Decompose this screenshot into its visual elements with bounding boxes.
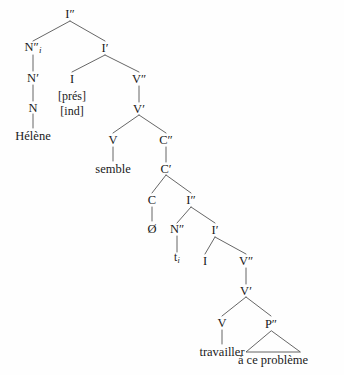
edge-ibar-to-i (72, 55, 105, 72)
node-comp-c1: C′ (160, 163, 171, 176)
node-embedded-i: I (203, 255, 207, 268)
syntax-tree-figure: I″ N″i N′ N Hélène I′ I [prés] [ind] V″ … (0, 0, 344, 375)
edge-v1-to-c2 (139, 115, 166, 133)
node-trace: ti (174, 252, 180, 265)
edge-root-to-subject (33, 21, 70, 41)
edge-embedded-ibar-to-v2 (215, 237, 246, 254)
node-pp-phrase: à ce problème (238, 354, 308, 367)
feature-mood: [ind] (58, 104, 86, 119)
node-embedded-v2: V″ (239, 255, 253, 268)
node-matrix-i1: I′ (102, 42, 109, 55)
edge-c1-to-embedded-i2 (166, 175, 191, 193)
node-subject-n2: N″i (24, 41, 41, 55)
node-subject-index: i (39, 45, 42, 55)
node-subject-n2-label: N″ (24, 40, 38, 54)
node-comp-c: C (148, 194, 156, 207)
node-subject-word: Hélène (15, 130, 50, 143)
node-trace-label: t (174, 251, 177, 263)
node-pp-p2: P″ (265, 318, 277, 331)
edge-embedded-i2-to-ibar (191, 207, 215, 223)
node-matrix-v2: V″ (132, 73, 146, 86)
node-matrix-v: V (108, 134, 117, 147)
node-subject-n1: N′ (27, 72, 39, 85)
node-trace-index: i (178, 256, 180, 265)
tree-edge-layer (0, 0, 344, 375)
node-root-i2: I″ (65, 8, 74, 21)
node-trace-n2: N″ (170, 223, 184, 236)
node-embedded-i2: I″ (186, 194, 195, 207)
inflection-features: [prés] [ind] (58, 89, 86, 118)
node-matrix-i: I (70, 73, 74, 86)
edge-c1-to-c (152, 175, 166, 193)
node-matrix-v1: V′ (133, 103, 145, 116)
node-subject-n: N (28, 102, 37, 115)
edge-v1-to-v (113, 115, 139, 133)
edge-root-to-matrix-ibar (70, 21, 105, 41)
edge-embedded-v1-to-v (222, 297, 246, 316)
node-comp-c2: C″ (159, 134, 173, 147)
feature-tense: [prés] (58, 89, 86, 104)
edge-embedded-v1-to-p2 (246, 297, 271, 316)
edge-ibar-to-v2 (105, 55, 139, 72)
pp-abbreviation-triangle (246, 331, 300, 352)
edge-embedded-ibar-to-i (205, 237, 215, 254)
node-null-complementizer: Ø (147, 223, 156, 236)
node-matrix-verb: semble (95, 163, 130, 176)
node-embedded-v1: V′ (240, 285, 252, 298)
edge-embedded-i2-to-trace-n2 (177, 207, 191, 223)
node-embedded-i1: I′ (212, 224, 219, 237)
node-embedded-v: V (217, 317, 226, 330)
